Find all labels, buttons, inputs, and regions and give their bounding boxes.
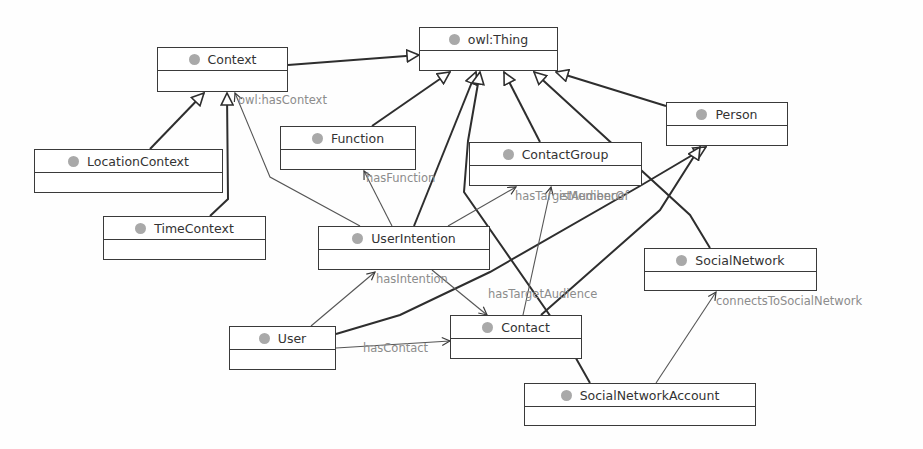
- class-header: Context: [158, 48, 287, 71]
- class-header: SocialNetworkAccount: [525, 384, 755, 407]
- class-header: Person: [667, 103, 787, 126]
- class-contact[interactable]: Contact: [450, 315, 582, 359]
- class-social-network-account[interactable]: SocialNetworkAccount: [524, 383, 756, 426]
- class-location-context[interactable]: LocationContext: [34, 149, 223, 193]
- class-context[interactable]: Context: [157, 47, 288, 92]
- edge-locationcontext-to-context: [150, 93, 204, 149]
- class-header: owl:Thing: [420, 28, 557, 51]
- class-name: Contact: [501, 320, 550, 335]
- class-icon: [676, 255, 687, 266]
- class-icon: [449, 34, 460, 45]
- class-user-intention[interactable]: UserIntention: [318, 226, 490, 270]
- label-connects-to-social-network: connectsToSocialNetwork: [716, 294, 862, 308]
- class-header: ContactGroup: [470, 143, 641, 166]
- label-is-member-of: isMemberOf: [559, 189, 629, 203]
- class-header: SocialNetwork: [645, 249, 816, 272]
- edge-hastargetaudience-contactgroup: [448, 187, 516, 226]
- label-has-function: hasFunction: [366, 171, 435, 185]
- ontology-diagram-canvas: owl:hasContext hasFunction hasTargetAudi…: [0, 0, 923, 449]
- class-name: LocationContext: [87, 154, 189, 169]
- class-icon: [482, 322, 493, 333]
- edge-contactgroup-to-thing: [504, 72, 540, 142]
- edge-context-to-thing: [288, 55, 419, 65]
- class-icon: [561, 390, 572, 401]
- class-name: SocialNetworkAccount: [580, 388, 720, 403]
- class-function[interactable]: Function: [280, 126, 416, 170]
- class-social-network[interactable]: SocialNetwork: [644, 248, 817, 291]
- class-name: owl:Thing: [468, 32, 528, 47]
- class-header: Function: [281, 127, 415, 150]
- class-header: TimeContext: [104, 217, 265, 240]
- class-owl-thing[interactable]: owl:Thing: [419, 27, 558, 71]
- class-icon: [189, 54, 200, 65]
- class-icon: [352, 233, 363, 244]
- class-person[interactable]: Person: [666, 102, 788, 146]
- class-header: LocationContext: [35, 150, 222, 173]
- class-name: Context: [208, 52, 257, 67]
- class-name: TimeContext: [154, 221, 234, 236]
- edge-person-to-thing: [556, 72, 666, 106]
- edge-connectstosocialnetwork: [656, 292, 716, 383]
- class-name: SocialNetwork: [695, 253, 784, 268]
- edge-function-to-thing: [372, 72, 450, 126]
- label-has-context: owl:hasContext: [238, 93, 327, 107]
- class-icon: [696, 109, 707, 120]
- class-time-context[interactable]: TimeContext: [103, 216, 266, 260]
- class-name: User: [278, 331, 307, 346]
- class-icon: [135, 223, 146, 234]
- class-name: Function: [331, 131, 384, 146]
- edge-hasintention: [311, 272, 375, 326]
- class-user[interactable]: User: [229, 326, 336, 370]
- class-name: UserIntention: [371, 231, 456, 246]
- label-has-intention: hasIntention: [376, 272, 448, 286]
- class-icon: [259, 333, 270, 344]
- class-name: Person: [715, 107, 757, 122]
- class-header: User: [230, 327, 335, 350]
- class-icon: [503, 149, 514, 160]
- class-icon: [68, 156, 79, 167]
- class-icon: [312, 133, 323, 144]
- class-name: ContactGroup: [522, 147, 609, 162]
- class-header: UserIntention: [319, 227, 489, 250]
- label-has-contact: hasContact: [363, 341, 428, 355]
- class-contact-group[interactable]: ContactGroup: [469, 142, 642, 186]
- class-header: Contact: [451, 316, 581, 339]
- label-has-target-audience-contact: hasTargetAudience: [488, 287, 597, 301]
